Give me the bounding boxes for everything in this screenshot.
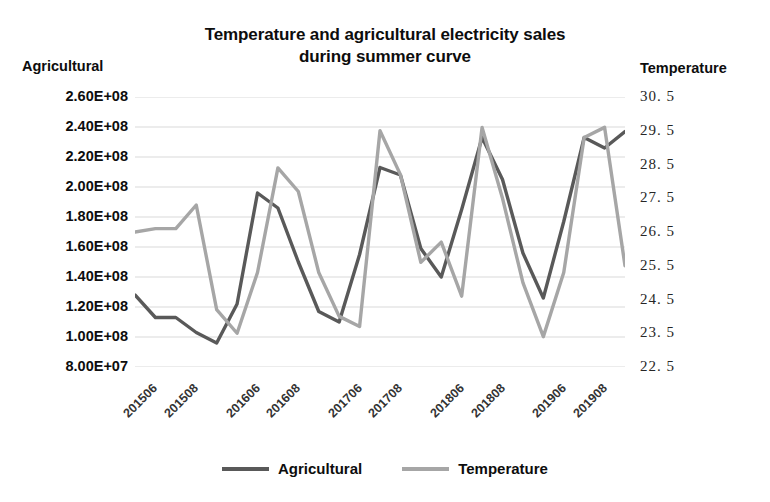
plot-area [135, 97, 625, 367]
plot-svg [135, 97, 625, 367]
left-axis-tick-label: 2.00E+08 [66, 179, 129, 194]
left-axis-tick-label: 2.40E+08 [66, 119, 129, 134]
right-axis-tick-label: 30. 5 [640, 89, 675, 104]
legend-label: Agricultural [278, 460, 362, 477]
legend-item[interactable]: Agricultural [222, 460, 362, 477]
left-axis-tick-label: 1.20E+08 [66, 299, 129, 314]
series-line-temperature [135, 127, 625, 336]
chart-root: Temperature and agricultural electricity… [0, 0, 770, 502]
chart-legend: AgriculturalTemperature [0, 460, 770, 477]
chart-title-line-1: Temperature and agricultural electricity… [150, 24, 620, 46]
x-axis-tick-label: 201508 [149, 381, 201, 433]
legend-swatch-icon [222, 467, 269, 471]
left-axis-tick-label: 1.00E+08 [66, 329, 129, 344]
left-axis-tick-label: 8.00E+07 [66, 359, 129, 374]
right-axis-caption: Temperature [640, 60, 727, 76]
right-axis-tick-label: 26. 5 [640, 224, 675, 239]
left-axis-caption: Agricultural [22, 58, 103, 74]
left-axis-tick-label: 1.60E+08 [66, 239, 129, 254]
left-axis-tick-label: 1.80E+08 [66, 209, 129, 224]
x-axis-tick-label: 201808 [455, 381, 507, 433]
left-axis-tick-label: 1.40E+08 [66, 269, 129, 284]
x-axis-tick-label: 201708 [353, 381, 405, 433]
x-axis-tick-label: 201606 [210, 381, 262, 433]
legend-item[interactable]: Temperature [402, 460, 548, 477]
chart-title: Temperature and agricultural electricity… [150, 24, 620, 68]
legend-swatch-icon [402, 467, 449, 471]
left-axis-tick-label: 2.20E+08 [66, 149, 129, 164]
right-axis-tick-label: 22. 5 [640, 359, 675, 374]
series-lines [135, 127, 625, 343]
right-axis-tick-label: 23. 5 [640, 325, 675, 340]
x-axis-tick-label: 201608 [251, 381, 303, 433]
legend-label: Temperature [458, 460, 548, 477]
right-axis-tick-label: 28. 5 [640, 157, 675, 172]
right-axis-tick-label: 24. 5 [640, 292, 675, 307]
chart-title-line-2: during summer curve [150, 46, 620, 68]
right-axis-tick-label: 29. 5 [640, 123, 675, 138]
left-axis-ticks: 2.60E+082.40E+082.20E+082.00E+081.80E+08… [18, 0, 128, 502]
right-axis-tick-label: 27. 5 [640, 190, 675, 205]
x-axis-tick-label: 201908 [557, 381, 609, 433]
left-axis-tick-label: 2.60E+08 [66, 89, 129, 104]
x-axis-tick-label: 201706 [312, 381, 364, 433]
x-axis-tick-label: 201506 [108, 381, 160, 433]
x-axis-tick-label: 201806 [414, 381, 466, 433]
x-axis-tick-label: 201906 [516, 381, 568, 433]
right-axis-tick-label: 25. 5 [640, 258, 675, 273]
